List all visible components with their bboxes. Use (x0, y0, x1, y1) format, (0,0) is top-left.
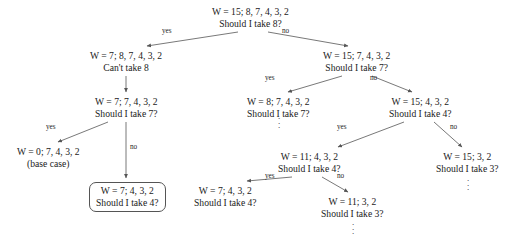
vertical-ellipsis: ... (348, 220, 358, 234)
tree-node-content: W = 7; 4, 3, 2Should I take 4? (194, 185, 257, 208)
tree-edge (268, 32, 348, 46)
tree-node: W = 7; 8, 7, 4, 3, 2Can't take 8 (90, 50, 162, 73)
node-state-line: W = 7; 8, 7, 4, 3, 2 (90, 50, 162, 62)
ellipsis-dot: . (348, 229, 358, 234)
tree-node-content: W = 15; 3, 2Should I take 3? (436, 151, 499, 174)
tree-edge (434, 122, 462, 147)
node-state-line: W = 15; 3, 2 (436, 151, 499, 163)
tree-edge (338, 122, 404, 147)
edge-label: yes (46, 123, 56, 131)
tree-node: W = 11; 4, 3, 2Should I take 4? (278, 151, 341, 174)
tree-node-box: W = 7; 4, 3, 2Should I take 4? (89, 182, 166, 212)
tree-node: W = 15; 8, 7, 4, 3, 2Should I take 8? (212, 6, 289, 29)
node-state-line: W = 7; 7, 4, 3, 2 (95, 96, 158, 108)
vertical-ellipsis: ... (274, 114, 284, 128)
edge-label: no (282, 27, 289, 35)
edge-label: yes (337, 123, 347, 131)
node-state-line: W = 15; 4, 3, 2 (389, 96, 452, 108)
node-question-line: Should I take 4? (194, 197, 257, 209)
tree-node: W = 7; 4, 3, 2Should I take 4? (89, 182, 166, 212)
tree-edge (372, 76, 412, 92)
node-question-line: (base case) (17, 158, 80, 170)
edge-label: yes (265, 74, 275, 82)
ellipsis-dot: . (274, 123, 284, 128)
edge-label: no (337, 172, 344, 180)
edge-label: yes (265, 172, 275, 180)
recursion-tree-figure: W = 15; 8, 7, 4, 3, 2Should I take 8?W =… (0, 0, 509, 242)
tree-edge (288, 76, 342, 92)
tree-node: W = 15; 3, 2Should I take 3? (436, 151, 499, 174)
tree-node-content: W = 15; 7, 4, 3, 2Should I take 7? (323, 50, 390, 73)
tree-node: W = 15; 7, 4, 3, 2Should I take 7? (323, 50, 390, 73)
tree-node: W = 11; 3, 2Should I take 3? (321, 196, 384, 219)
tree-node-content: W = 7; 7, 4, 3, 2Should I take 7? (95, 96, 158, 119)
tree-node-content: W = 11; 3, 2Should I take 3? (321, 196, 384, 219)
node-question-line: Should I take 4? (278, 163, 341, 175)
tree-node-content: W = 11; 4, 3, 2Should I take 4? (278, 151, 341, 174)
node-state-line: W = 11; 3, 2 (321, 196, 384, 208)
edge-label: yes (162, 27, 172, 35)
edge-label: no (130, 143, 137, 151)
node-state-line: W = 0; 7, 4, 3, 2 (17, 146, 80, 158)
node-question-line: Should I take 7? (95, 108, 158, 120)
node-question-line: Can't take 8 (90, 62, 162, 74)
node-question-line: Should I take 4? (389, 108, 452, 120)
edge-label: no (370, 74, 377, 82)
tree-node-content: W = 0; 7, 4, 3, 2(base case) (17, 146, 80, 169)
node-question-line: Should I take 8? (212, 18, 289, 30)
tree-edge (58, 122, 108, 142)
node-state-line: W = 15; 8, 7, 4, 3, 2 (212, 6, 289, 18)
vertical-ellipsis: ... (463, 176, 473, 190)
node-state-line: W = 15; 7, 4, 3, 2 (323, 50, 390, 62)
tree-node: W = 0; 7, 4, 3, 2(base case) (17, 146, 80, 169)
node-state-line: W = 8; 7, 4, 3, 2 (247, 96, 310, 108)
ellipsis-dot: . (463, 185, 473, 190)
tree-node-content: W = 15; 4, 3, 2Should I take 4? (389, 96, 452, 119)
tree-node-content: W = 7; 8, 7, 4, 3, 2Can't take 8 (90, 50, 162, 73)
node-state-line: W = 11; 4, 3, 2 (278, 151, 341, 163)
tree-node: W = 15; 4, 3, 2Should I take 4? (389, 96, 452, 119)
tree-node: W = 7; 4, 3, 2Should I take 4? (194, 185, 257, 208)
tree-node-content: W = 15; 8, 7, 4, 3, 2Should I take 8? (212, 6, 289, 29)
tree-node: W = 7; 7, 4, 3, 2Should I take 7? (95, 96, 158, 119)
node-question-line: Should I take 4? (96, 197, 159, 209)
tree-edge (147, 32, 238, 46)
node-state-line: W = 7; 4, 3, 2 (96, 185, 159, 197)
node-question-line: Should I take 7? (323, 62, 390, 74)
edge-label: no (450, 123, 457, 131)
node-state-line: W = 7; 4, 3, 2 (194, 185, 257, 197)
